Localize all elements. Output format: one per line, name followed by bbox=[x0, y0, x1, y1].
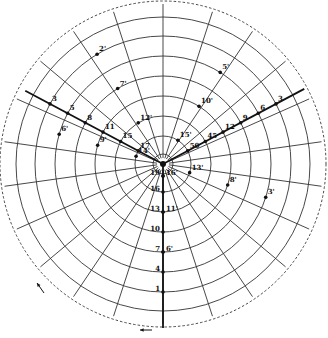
point-label: 15' bbox=[180, 130, 192, 139]
point-label: 12' bbox=[140, 113, 152, 122]
data-point bbox=[161, 230, 165, 234]
point-label: 8' bbox=[230, 175, 237, 184]
point-label: 50 bbox=[190, 141, 200, 150]
grid-spoke bbox=[74, 169, 160, 297]
point-label: 6 bbox=[260, 103, 265, 112]
point-label: 16' bbox=[166, 168, 178, 177]
data-point bbox=[161, 190, 165, 194]
grid-spoke bbox=[5, 142, 158, 163]
point-label: 13 bbox=[150, 204, 160, 213]
point-label: 5' bbox=[222, 62, 229, 71]
point-label: 14' bbox=[138, 146, 150, 155]
point-label: 4 bbox=[155, 264, 160, 273]
grid-spoke bbox=[168, 166, 309, 229]
point-label: 1 bbox=[155, 284, 160, 293]
point-label: 45 bbox=[207, 131, 217, 140]
point-label: 5 bbox=[70, 103, 75, 112]
point-label: 3 bbox=[278, 94, 283, 103]
point-label: 9' bbox=[100, 135, 107, 144]
grid-spoke bbox=[5, 165, 158, 186]
grid-spoke bbox=[40, 168, 158, 267]
point-label: 13' bbox=[192, 163, 204, 172]
point-label: 15 bbox=[123, 131, 133, 140]
point-label: 3 bbox=[52, 94, 57, 103]
point-label: 7' bbox=[120, 79, 127, 88]
point-label: 2' bbox=[99, 44, 106, 53]
arrowhead-icon bbox=[140, 328, 144, 331]
data-point bbox=[161, 270, 165, 274]
grid-spoke bbox=[17, 99, 158, 162]
grid-spoke bbox=[166, 169, 252, 297]
data-point bbox=[161, 290, 165, 294]
grid-spoke bbox=[165, 170, 213, 316]
point-label: 11' bbox=[166, 204, 178, 213]
grid-spoke bbox=[168, 168, 286, 267]
point-label: 6' bbox=[61, 124, 68, 133]
point-label: 10 bbox=[150, 224, 160, 233]
point-label: 8 bbox=[87, 113, 92, 122]
point-label: 9 bbox=[243, 113, 248, 122]
data-point bbox=[161, 174, 165, 178]
point-label: 11 bbox=[105, 122, 115, 131]
point-label: 7 bbox=[155, 244, 160, 253]
point-label: 3' bbox=[268, 187, 275, 196]
point-label: 10' bbox=[201, 96, 213, 105]
polar-diagram: 17151185312'7'2'50451296315'10'5'13'8'3'… bbox=[0, 0, 328, 338]
grid-spoke bbox=[17, 166, 158, 229]
data-point bbox=[161, 250, 165, 254]
point-label: 6' bbox=[166, 244, 173, 253]
point-label: 19 bbox=[150, 168, 160, 177]
point-label: 12 bbox=[225, 122, 235, 131]
point-label: 16 bbox=[150, 184, 160, 193]
labeled-points: 17151185312'7'2'50451296315'10'5'13'8'3'… bbox=[48, 44, 283, 294]
grid-spoke bbox=[168, 61, 286, 160]
data-point bbox=[161, 210, 165, 214]
